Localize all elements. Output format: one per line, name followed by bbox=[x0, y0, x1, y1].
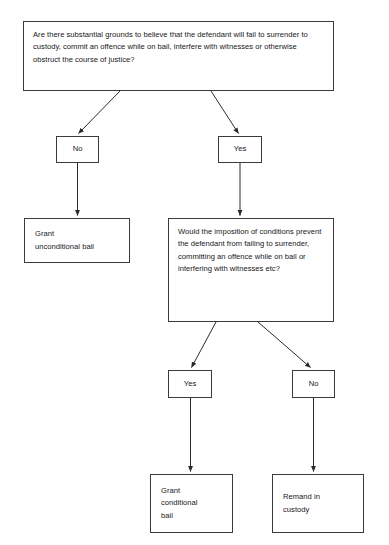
bail-decision-flowchart: Are there substantial grounds to believe… bbox=[0, 0, 389, 545]
question-box-imposition-of-conditions: Would the imposition of conditions preve… bbox=[168, 218, 334, 322]
answer-box-no-1: No bbox=[56, 136, 99, 163]
question-box-imposition-of-conditions-text: Would the imposition of conditions preve… bbox=[178, 226, 324, 275]
edge-question1-to-yes bbox=[211, 91, 239, 134]
answer-box-yes-2-text: Yes bbox=[184, 378, 196, 390]
answer-box-no-1-text: No bbox=[73, 143, 83, 155]
answer-box-no-2: No bbox=[292, 370, 335, 398]
answer-box-yes-1: Yes bbox=[218, 136, 262, 163]
edge-question1-to-no bbox=[79, 91, 121, 134]
edge-question2-to-no bbox=[258, 322, 311, 368]
answer-box-yes-1-text: Yes bbox=[234, 143, 246, 155]
question-box-substantial-grounds: Are there substantial grounds to believe… bbox=[23, 21, 334, 91]
outcome-box-grant-unconditional-bail: Grant unconditional bail bbox=[24, 218, 130, 263]
answer-box-yes-2: Yes bbox=[168, 370, 212, 398]
question-box-substantial-grounds-text: Are there substantial grounds to believe… bbox=[33, 29, 324, 66]
edge-question2-to-yes bbox=[192, 322, 217, 368]
answer-box-no-2-text: No bbox=[309, 378, 319, 390]
outcome-box-grant-conditional-bail-text: Grant conditional bail bbox=[161, 485, 198, 522]
outcome-box-remand-in-custody: Remand in custody bbox=[272, 474, 364, 533]
outcome-box-grant-unconditional-bail-text: Grant unconditional bail bbox=[35, 228, 94, 253]
outcome-box-remand-in-custody-text: Remand in custody bbox=[283, 491, 320, 516]
outcome-box-grant-conditional-bail: Grant conditional bail bbox=[150, 474, 233, 533]
